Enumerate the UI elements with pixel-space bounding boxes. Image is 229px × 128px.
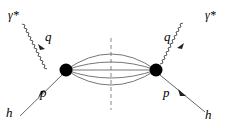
label-q-left: q (45, 29, 52, 44)
label-h-right: h (205, 107, 212, 122)
label-gamma-right: γ* (205, 8, 216, 22)
label-p-left: p (39, 85, 47, 100)
arrow-q-left-icon (38, 44, 45, 50)
arrow-q-right-icon (177, 43, 184, 49)
label-q-right: q (164, 29, 171, 44)
right-blob (150, 64, 163, 77)
feynman-diagram: γ* q p h γ* q p h (0, 0, 229, 128)
left-blob (60, 64, 73, 77)
photon-left (22, 24, 47, 69)
label-h-left: h (6, 105, 13, 120)
label-p-right: p (162, 85, 170, 100)
label-gamma-left: γ* (8, 8, 19, 22)
